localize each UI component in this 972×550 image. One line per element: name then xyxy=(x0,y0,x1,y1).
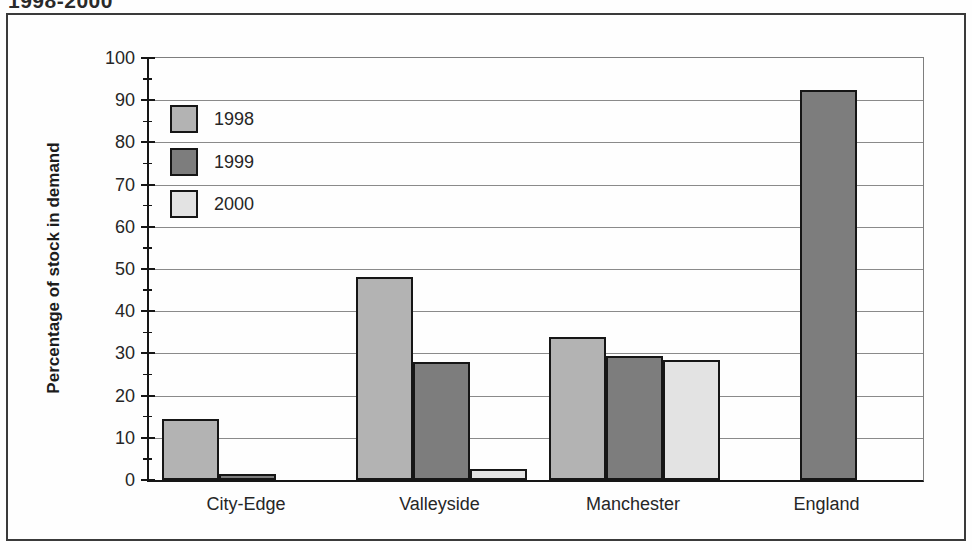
bar-city-edge-1998 xyxy=(162,419,219,480)
bar-valleyside-2000 xyxy=(470,469,527,480)
chart-frame: Percentage of stock in demand 1998199920… xyxy=(6,13,966,541)
y-minor-tick-85 xyxy=(143,121,152,123)
y-minor-tick-55 xyxy=(143,247,152,249)
y-minor-tick-65 xyxy=(143,205,152,207)
x-axis-label-england: England xyxy=(730,493,924,515)
y-major-tick-90 xyxy=(141,99,155,101)
y-major-tick-0 xyxy=(141,479,155,481)
y-major-tick-80 xyxy=(141,141,155,143)
y-major-tick-20 xyxy=(141,395,155,397)
y-major-tick-100 xyxy=(141,57,155,59)
legend-swatch-1999 xyxy=(170,148,198,176)
y-axis-label-60: 60 xyxy=(89,216,135,238)
x-axis-label-city-edge: City-Edge xyxy=(149,493,343,515)
y-axis-label-10: 10 xyxy=(89,427,135,449)
y-major-tick-10 xyxy=(141,437,155,439)
y-minor-tick-95 xyxy=(143,78,152,80)
bar-england-1999 xyxy=(800,90,857,480)
x-axis-label-manchester: Manchester xyxy=(536,493,730,515)
bar-valleyside-1998 xyxy=(356,277,413,480)
y-axis-label-40: 40 xyxy=(89,300,135,322)
y-axis-label-20: 20 xyxy=(89,385,135,407)
y-minor-tick-5 xyxy=(143,458,152,460)
y-major-tick-60 xyxy=(141,226,155,228)
y-minor-tick-15 xyxy=(143,416,152,418)
bar-manchester-2000 xyxy=(663,360,720,480)
legend-swatch-1998 xyxy=(170,105,198,133)
y-minor-tick-35 xyxy=(143,332,152,334)
legend-label-2000: 2000 xyxy=(214,192,254,216)
legend-label-1998: 1998 xyxy=(214,107,254,131)
legend-label-1999: 1999 xyxy=(214,150,254,174)
y-minor-tick-75 xyxy=(143,163,152,165)
y-major-tick-50 xyxy=(141,268,155,270)
x-axis-label-valleyside: Valleyside xyxy=(343,493,537,515)
bar-manchester-1998 xyxy=(549,337,606,480)
y-major-tick-30 xyxy=(141,352,155,354)
y-major-tick-70 xyxy=(141,184,155,186)
plot-area: 199819992000 xyxy=(147,57,924,482)
y-axis-label-100: 100 xyxy=(89,47,135,69)
y-major-tick-40 xyxy=(141,310,155,312)
scanned-page: 1998-2000 Percentage of stock in demand … xyxy=(0,0,972,550)
y-axis-label-90: 90 xyxy=(89,89,135,111)
y-axis-title: Percentage of stock in demand xyxy=(44,142,64,393)
cropped-page-title: 1998-2000 xyxy=(8,0,308,9)
y-axis-label-50: 50 xyxy=(89,258,135,280)
y-axis-label-70: 70 xyxy=(89,174,135,196)
y-minor-tick-25 xyxy=(143,374,152,376)
bar-valleyside-1999 xyxy=(413,362,470,480)
legend-swatch-2000 xyxy=(170,190,198,218)
y-axis-label-0: 0 xyxy=(89,469,135,491)
y-axis-label-80: 80 xyxy=(89,131,135,153)
bar-manchester-1999 xyxy=(606,356,663,480)
y-axis-label-30: 30 xyxy=(89,342,135,364)
bar-city-edge-1999 xyxy=(219,474,276,480)
y-minor-tick-45 xyxy=(143,289,152,291)
cropped-page-title-text: 1998-2000 xyxy=(8,0,308,9)
